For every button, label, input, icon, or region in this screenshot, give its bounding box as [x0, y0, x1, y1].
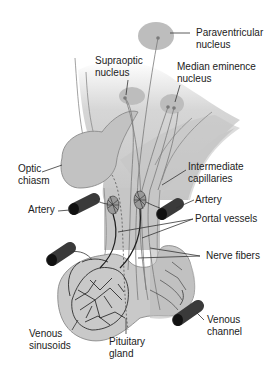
label-artery-left: Artery: [28, 204, 55, 216]
label-line: nucleus: [95, 67, 143, 79]
label-line: capillaries: [188, 173, 244, 185]
label-intermediate-capillaries: Intermediate capillaries: [188, 161, 244, 185]
label-line: sinusoids: [29, 340, 71, 352]
label-artery-right: Artery: [195, 194, 222, 206]
label-line: Median eminence: [177, 61, 256, 73]
label-pituitary-gland: Pituitary gland: [109, 336, 145, 360]
median-eminence-nucleus: [160, 94, 184, 114]
label-optic-chiasm: Optic chiasm: [18, 163, 50, 187]
label-line: nucleus: [196, 39, 263, 51]
label-venous-channel: Venous channel: [207, 314, 242, 338]
label-paraventricular-nucleus: Paraventricular nucleus: [196, 27, 263, 51]
label-venous-sinusoids: Venous sinusoids: [29, 328, 71, 352]
label-line: Pituitary: [109, 336, 145, 348]
hypothalamic-pituitary-diagram: Paraventricular nucleus Supraoptic nucle…: [0, 0, 279, 374]
label-line: Supraoptic: [95, 55, 143, 67]
label-portal-vessels: Portal vessels: [195, 213, 257, 225]
supraoptic-nucleus: [119, 87, 145, 105]
label-median-eminence-nucleus: Median eminence nucleus: [177, 61, 256, 85]
label-line: chiasm: [18, 175, 50, 187]
capillary-plexus-right: [134, 191, 146, 209]
label-line: gland: [109, 348, 145, 360]
label-nerve-fibers: Nerve fibers: [206, 250, 260, 262]
capillary-plexus-left: [107, 196, 119, 214]
label-line: channel: [207, 326, 242, 338]
label-line: nucleus: [177, 73, 256, 85]
artery-left: [69, 199, 108, 215]
label-line: Intermediate: [188, 161, 244, 173]
label-line: Optic: [18, 163, 50, 175]
label-supraoptic-nucleus: Supraoptic nucleus: [95, 55, 143, 79]
label-line: Venous: [207, 314, 242, 326]
paraventricular-nucleus: [138, 22, 174, 50]
label-line: Venous: [29, 328, 71, 340]
label-line: Paraventricular: [196, 27, 263, 39]
